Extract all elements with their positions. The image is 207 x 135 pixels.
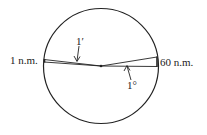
right-ray-lower xyxy=(101,66,157,67)
left-distance-label: 1 n.m. xyxy=(10,54,38,66)
right-ray-upper xyxy=(101,57,157,66)
earth-circle-diagram: 1 n.m. 60 n.m. 1′ 1° xyxy=(0,0,207,135)
degree-label: 1° xyxy=(127,79,137,91)
center-point xyxy=(100,65,103,68)
arc-minute-label: 1′ xyxy=(76,35,84,47)
right-distance-label: 60 n.m. xyxy=(160,56,194,68)
